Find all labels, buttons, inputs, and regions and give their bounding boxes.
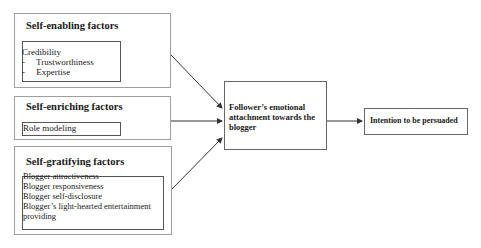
arrow-gratifying-to-attachment <box>172 138 222 189</box>
connector-arrows <box>0 0 481 248</box>
arrow-enabling-to-attachment <box>171 55 222 108</box>
